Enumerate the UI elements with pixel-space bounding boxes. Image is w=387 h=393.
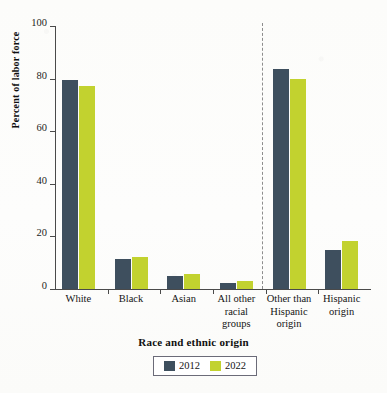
bar-2022-all-other-racial-groups xyxy=(237,281,253,289)
bar-2012-hispanic-origin xyxy=(325,250,341,289)
y-tick-0: 0 xyxy=(50,289,55,290)
y-tick-100: 100 xyxy=(50,26,55,27)
y-tick-60: 60 xyxy=(50,131,55,132)
bar-2022-black xyxy=(132,257,148,289)
group-divider-line xyxy=(262,23,263,289)
category-label-line: origin xyxy=(251,318,327,331)
bar-2012-other-than-hispanic-origin xyxy=(273,69,289,289)
x-category-label-hispanic-origin: Hispanicorigin xyxy=(304,293,380,318)
bar-2012-white xyxy=(62,80,78,289)
category-label-line: origin xyxy=(304,306,380,319)
bar-2012-black xyxy=(115,259,131,289)
y-tick-label-40: 40 xyxy=(37,176,48,187)
legend-entry-2022: 2022 xyxy=(210,361,246,372)
legend-label-2012: 2012 xyxy=(179,361,200,372)
legend-label-2022: 2022 xyxy=(225,361,246,372)
plot-area: 020406080100 xyxy=(55,26,371,289)
bar-2012-all-other-racial-groups xyxy=(220,283,236,289)
y-axis-title: Percent of labor force xyxy=(10,20,21,140)
y-tick-80: 80 xyxy=(50,79,55,80)
y-tick-label-100: 100 xyxy=(31,18,47,29)
chart-legend: 2012 2022 xyxy=(153,356,257,376)
y-tick-40: 40 xyxy=(50,184,55,185)
bar-chart-figure: Percent of labor force 020406080100 Whit… xyxy=(0,0,387,393)
y-tick-label-80: 80 xyxy=(37,71,48,82)
bar-2022-white xyxy=(79,86,95,289)
x-axis-title: Race and ethnic origin xyxy=(0,336,387,348)
bar-2022-asian xyxy=(184,274,200,289)
bar-2012-asian xyxy=(167,276,183,289)
y-tick-label-20: 20 xyxy=(37,228,48,239)
category-label-line: Hispanic xyxy=(304,293,380,306)
bar-2022-other-than-hispanic-origin xyxy=(290,79,306,289)
y-tick-label-0: 0 xyxy=(42,281,47,292)
bar-2022-hispanic-origin xyxy=(342,241,358,289)
legend-swatch-2022-icon xyxy=(210,361,221,371)
y-tick-20: 20 xyxy=(50,236,55,237)
legend-swatch-2012-icon xyxy=(164,361,175,371)
y-tick-label-60: 60 xyxy=(37,123,48,134)
legend-entry-2012: 2012 xyxy=(164,361,200,372)
y-axis-line xyxy=(55,26,56,289)
